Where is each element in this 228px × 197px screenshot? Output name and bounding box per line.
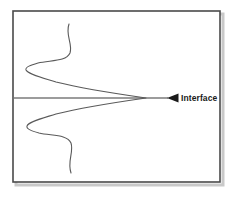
interface-label: Interface bbox=[181, 93, 218, 103]
diffusion-profile-figure: Interface bbox=[0, 0, 228, 197]
figure-container: Interface bbox=[0, 0, 228, 197]
